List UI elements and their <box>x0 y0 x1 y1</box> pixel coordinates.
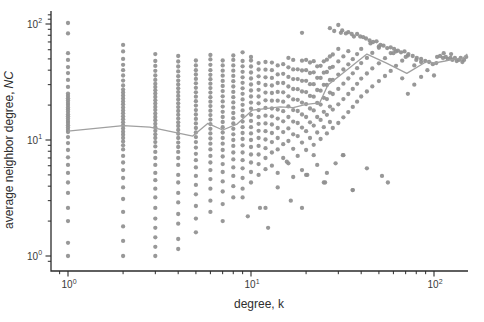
scatter-figure: 100101102100101102 degree, k average nei… <box>0 0 484 322</box>
scatter-points <box>66 21 469 258</box>
tick-label: 102 <box>428 278 443 291</box>
y-axis-title-variable: NC <box>2 71 16 89</box>
tick-label: 101 <box>245 278 260 291</box>
tick-label: 100 <box>27 249 42 262</box>
tick-label: 102 <box>27 17 42 30</box>
chart-canvas: 100101102100101102 degree, k average nei… <box>0 0 484 322</box>
y-axis-title-main: average neighbor degree, <box>2 91 16 228</box>
tick-label: 101 <box>27 133 42 146</box>
y-axis-title: average neighbor degree,NC <box>2 71 16 229</box>
x-axis-title: degree, k <box>234 297 285 311</box>
plot-area: 100101102100101102 <box>27 11 468 290</box>
tick-label: 100 <box>62 278 77 291</box>
